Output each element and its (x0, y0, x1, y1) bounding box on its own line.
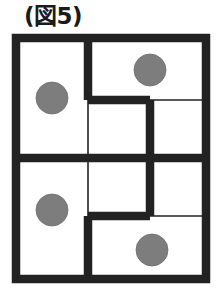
puzzle-diagram (0, 0, 223, 295)
dot-left-upper (36, 82, 68, 114)
figure-container: (図5) (0, 0, 223, 295)
dot-right-bottom (136, 234, 168, 266)
dot-right-top (134, 54, 166, 86)
dot-left-lower (36, 194, 68, 226)
